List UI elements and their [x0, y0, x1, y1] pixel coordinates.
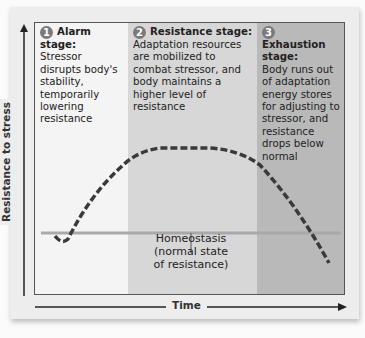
homeostasis-label: Homeostasis (normal state of resistance) [141, 232, 241, 271]
y-axis [16, 24, 34, 300]
x-axis-label: Time [166, 299, 207, 311]
homeostasis-label-line: (normal state [141, 245, 241, 258]
homeostasis-label-line: Homeostasis [141, 232, 241, 245]
homeostasis-label-line: of resistance) [141, 258, 241, 271]
plot-area: 1Alarm stage: Stressor disrupts body's s… [34, 22, 345, 295]
y-axis-arrow-icon [16, 24, 34, 300]
y-axis-label: Resistance to stress [0, 99, 12, 225]
